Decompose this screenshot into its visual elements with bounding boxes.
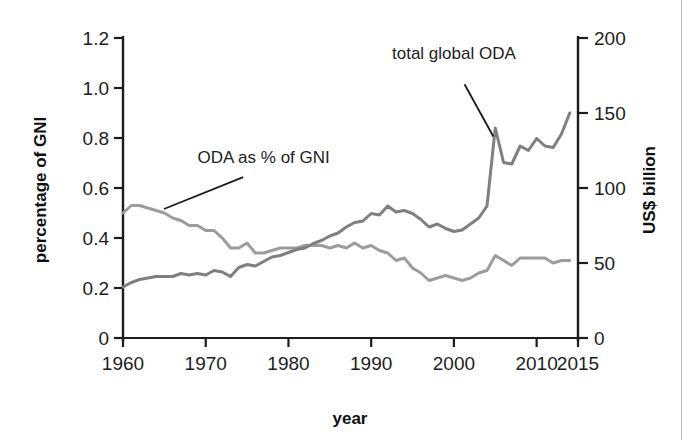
annotation-label-oda-as-pct-of-gni: ODA as % of GNI <box>198 148 330 167</box>
right-axis-tick-label: 150 <box>594 103 626 124</box>
left-axis-tick-label: 0 <box>98 328 109 349</box>
right-axis-tick-label: 100 <box>594 178 626 199</box>
left-axis-tick-label: 1.0 <box>83 78 109 99</box>
left-axis-tick-label: 0.8 <box>83 128 109 149</box>
x-axis-title: year <box>333 409 368 428</box>
annotation-label-total-global-oda: total global ODA <box>392 44 516 63</box>
line-chart: 00.20.40.60.81.01.2 050100150200 1960197… <box>0 0 697 440</box>
right-axis-tick-label: 200 <box>594 28 626 49</box>
x-axis-tick-label: 1970 <box>185 353 227 374</box>
left-axis-title: percentage of GNI <box>31 117 50 263</box>
x-axis-tick-label: 2015 <box>557 353 599 374</box>
right-axis-tick-label: 0 <box>594 328 605 349</box>
left-axis-tick-label: 0.4 <box>83 228 110 249</box>
right-axis-title: US$ billion <box>640 146 659 234</box>
x-axis-tick-label: 1990 <box>350 353 392 374</box>
right-axis-tick-label: 50 <box>594 253 615 274</box>
page-border-line <box>681 0 682 440</box>
chart-background <box>0 0 697 440</box>
left-axis-tick-label: 0.6 <box>83 178 109 199</box>
left-axis-tick-label: 0.2 <box>83 278 109 299</box>
x-axis-tick-label: 2010 <box>515 353 557 374</box>
x-axis-tick-label: 1980 <box>267 353 309 374</box>
left-axis-tick-label: 1.2 <box>83 28 109 49</box>
chart-figure: 00.20.40.60.81.01.2 050100150200 1960197… <box>0 0 697 440</box>
x-axis-tick-label: 1960 <box>102 353 144 374</box>
x-axis-tick-label: 2000 <box>433 353 475 374</box>
